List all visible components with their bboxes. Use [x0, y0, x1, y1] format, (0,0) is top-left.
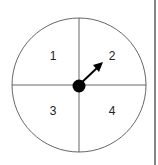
section-label-2: 2 [109, 49, 116, 63]
spinner-diagram: 1 2 3 4 [0, 0, 158, 165]
spinner-hub [73, 80, 86, 93]
section-label-1: 1 [50, 49, 57, 63]
section-label-3: 3 [50, 104, 57, 118]
section-label-4: 4 [109, 104, 116, 118]
